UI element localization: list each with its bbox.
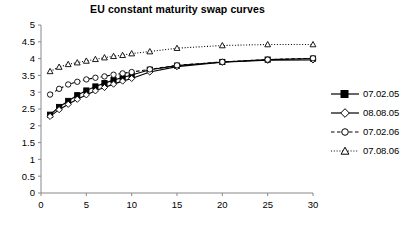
legend-label-2: 07.02.06: [360, 126, 399, 137]
svg-text:1: 1: [30, 154, 35, 165]
svg-text:10: 10: [126, 199, 137, 210]
legend-item-3[interactable]: 07.08.06: [330, 141, 410, 160]
svg-text:0: 0: [38, 199, 43, 210]
legend-key-open-diamond-icon: [330, 106, 360, 120]
svg-text:4: 4: [30, 53, 35, 64]
svg-text:3: 3: [30, 87, 35, 98]
chart-container: EU constant maturity swap curves 00.511.…: [0, 0, 412, 233]
series-3: [47, 41, 316, 73]
svg-text:30: 30: [308, 199, 319, 210]
legend-label-3: 07.08.06: [360, 145, 399, 156]
legend-key-open-triangle-icon: [330, 144, 360, 158]
svg-text:0: 0: [30, 187, 35, 198]
svg-text:3.5: 3.5: [22, 70, 35, 81]
legend-item-0[interactable]: 07.02.05: [330, 84, 410, 103]
svg-text:5: 5: [84, 199, 89, 210]
svg-text:1.5: 1.5: [22, 137, 35, 148]
svg-text:25: 25: [262, 199, 273, 210]
legend-key-open-circle-icon: [330, 125, 360, 139]
svg-text:4.5: 4.5: [22, 36, 35, 47]
chart-legend: 07.02.05 08.08.05 07.02.06 07.08.06: [330, 84, 410, 160]
x-axis-ticks: 051015202530: [38, 193, 318, 210]
svg-text:20: 20: [217, 199, 228, 210]
y-axis-ticks: 00.511.522.533.544.55: [22, 19, 41, 198]
legend-label-0: 07.02.05: [360, 88, 399, 99]
legend-key-filled-square-icon: [330, 87, 360, 101]
svg-text:15: 15: [172, 199, 183, 210]
series-0: [47, 56, 315, 117]
legend-label-1: 08.08.05: [360, 107, 399, 118]
legend-item-2[interactable]: 07.02.06: [330, 122, 410, 141]
legend-item-1[interactable]: 08.08.05: [330, 103, 410, 122]
svg-text:2.5: 2.5: [22, 103, 35, 114]
svg-text:5: 5: [30, 19, 35, 30]
svg-text:0.5: 0.5: [22, 171, 35, 182]
svg-text:2: 2: [30, 120, 35, 131]
